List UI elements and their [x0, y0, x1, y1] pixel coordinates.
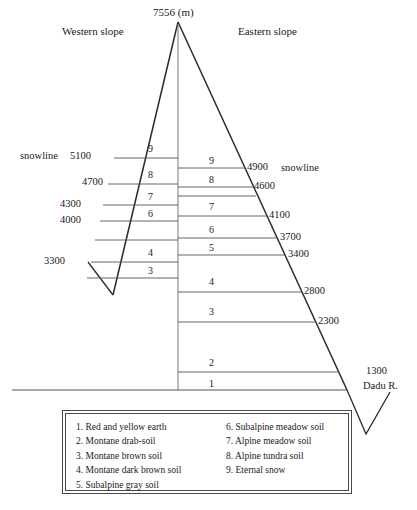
western-valley-line [88, 262, 113, 295]
zone-number-east-9: 9 [209, 156, 214, 166]
zone-number-east-4: 4 [209, 277, 214, 287]
elevation-label-west-4000: 4000 [60, 215, 81, 226]
elevation-label-east-2300: 2300 [318, 316, 339, 327]
zone-number-east-3: 3 [209, 307, 214, 317]
western-slope-line [113, 22, 178, 295]
elevation-label-east-2800: 2800 [304, 286, 325, 297]
zone-number-east-7: 7 [209, 202, 214, 212]
elevation-label-west-3300: 3300 [44, 256, 65, 267]
zone-number-east-8: 8 [209, 175, 214, 185]
summit-elevation-label: 7556 (m) [153, 7, 194, 18]
elevation-label-east-3700: 3700 [280, 232, 301, 243]
legend-item: 8. Alpine tundra soil [226, 451, 324, 462]
zone-number-west-8: 8 [148, 170, 153, 180]
elevation-label-east-4900: 4900 [247, 162, 268, 173]
zone-number-west-7: 7 [148, 192, 153, 202]
zone-number-west-6: 6 [148, 209, 153, 219]
zone-number-west-3: 3 [148, 266, 153, 276]
legend-item: 3. Montane brown soil [76, 451, 226, 462]
legend-box: 1. Red and yellow earth 2. Montane drab-… [62, 410, 352, 494]
dadu-river-valley [347, 390, 390, 434]
snowline-label-west: snowline [20, 151, 58, 162]
elevation-label-east-4600: 4600 [254, 181, 275, 192]
legend-column-one: 1. Red and yellow earth 2. Montane drab-… [76, 422, 226, 490]
elevation-label-west-4300: 4300 [60, 199, 81, 210]
legend-item: 9. Eternal snow [226, 465, 324, 476]
eastern-slope-title: Eastern slope [238, 26, 297, 37]
elevation-label-west-4700: 4700 [82, 177, 103, 188]
legend-item: 1. Red and yellow earth [76, 422, 226, 433]
zone-number-east-2: 2 [209, 358, 214, 368]
elevation-label-east-3400: 3400 [288, 249, 309, 260]
legend-item: 6. Subalpine meadow soil [226, 422, 324, 433]
snowline-label-east: snowline [281, 163, 319, 174]
zone-number-west-9: 9 [148, 144, 153, 154]
legend-inner-border: 1. Red and yellow earth 2. Montane drab-… [65, 413, 349, 491]
legend-columns: 1. Red and yellow earth 2. Montane drab-… [66, 414, 348, 490]
legend-column-two: 6. Subalpine meadow soil 7. Alpine meado… [226, 422, 324, 490]
elevation-label-east-4100: 4100 [269, 210, 290, 221]
elevation-label-west-5100: 5100 [70, 151, 91, 162]
dadu-river-label: Dadu R. [363, 381, 398, 392]
zone-number-east-1: 1 [209, 379, 214, 389]
elevation-label-east-1300: 1300 [366, 366, 387, 377]
zone-number-west-4: 4 [148, 248, 153, 258]
eastern-slope-line [178, 22, 347, 390]
zone-number-east-5: 5 [209, 243, 214, 253]
legend-item: 2. Montane drab-soil [76, 436, 226, 447]
legend-item: 4. Montane dark brown soil [76, 465, 226, 476]
diagram-canvas: Western slope Eastern slope 7556 (m) sno… [0, 0, 417, 510]
western-slope-title: Western slope [62, 26, 124, 37]
legend-item: 7. Alpine meadow soil [226, 436, 324, 447]
legend-item: 5. Subalpine gray soil [76, 480, 226, 491]
zone-number-east-6: 6 [209, 225, 214, 235]
